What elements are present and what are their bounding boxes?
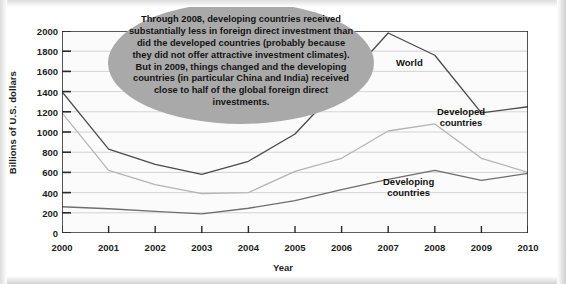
x-tick-label: 2003 bbox=[191, 242, 212, 253]
x-axis-tick-labels: 2000200120022003200420052006200720082009… bbox=[0, 0, 566, 284]
x-tick-label: 2002 bbox=[145, 242, 166, 253]
figure-container: Billions of U.S. dollars 020040060080010… bbox=[0, 0, 566, 284]
x-tick-label: 2007 bbox=[378, 242, 399, 253]
x-tick-label: 2010 bbox=[517, 242, 538, 253]
x-tick-label: 2009 bbox=[471, 242, 492, 253]
x-tick-label: 2006 bbox=[331, 242, 352, 253]
x-tick-label: 2001 bbox=[98, 242, 119, 253]
x-tick-label: 2000 bbox=[51, 242, 72, 253]
x-tick-label: 2005 bbox=[284, 242, 305, 253]
x-tick-label: 2008 bbox=[424, 242, 445, 253]
x-axis-title: Year bbox=[0, 262, 566, 273]
x-tick-label: 2004 bbox=[238, 242, 259, 253]
